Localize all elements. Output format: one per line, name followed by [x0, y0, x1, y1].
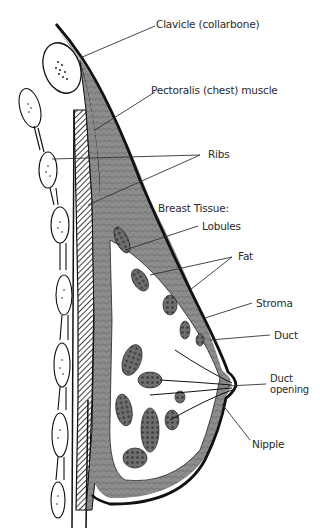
label-ribs: Ribs [208, 148, 230, 160]
label-stroma: Stroma [256, 297, 293, 309]
label-duct-opening-1: Duct [270, 373, 293, 384]
label-lobules: Lobules [202, 220, 241, 232]
label-fat: Fat [238, 250, 253, 262]
label-nipple: Nipple [252, 438, 284, 450]
rib-column [15, 86, 72, 518]
clavicle [36, 37, 88, 98]
label-pectoralis: Pectoralis (chest) muscle [151, 84, 278, 96]
label-clavicle: Clavicle (collarbone) [156, 18, 259, 30]
label-breast-tissue: Breast Tissue: [158, 202, 229, 214]
label-duct: Duct [274, 329, 298, 341]
label-duct-opening-2: opening [270, 384, 309, 395]
